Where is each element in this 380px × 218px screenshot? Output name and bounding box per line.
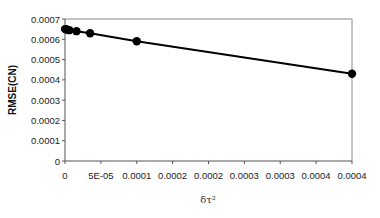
data-series <box>61 25 356 78</box>
series-line <box>65 29 352 74</box>
x-axis: 05E-050.00010.00020.00020.00030.00030.00… <box>62 161 366 181</box>
x-tick-label: 0.0002 <box>194 170 223 181</box>
y-axis-label: RMSE(CN) <box>7 65 18 115</box>
y-tick-label: 0.0004 <box>31 74 60 85</box>
y-tick-label: 0.0002 <box>31 115 60 126</box>
x-tick-label: 0.0003 <box>230 170 259 181</box>
x-tick-label: 0.0001 <box>122 170 151 181</box>
y-axis: 00.00010.00020.00030.00040.00050.00060.0… <box>31 14 65 167</box>
x-tick-label: 0.0004 <box>337 170 366 181</box>
y-tick-label: 0 <box>55 156 60 167</box>
data-point-marker <box>86 29 94 37</box>
y-tick-label: 0.0006 <box>31 34 60 45</box>
x-tick-label: 0.0002 <box>158 170 187 181</box>
data-point-marker <box>72 27 80 35</box>
y-tick-label: 0.0007 <box>31 14 60 25</box>
plot-area <box>65 19 352 161</box>
y-tick-label: 0.0005 <box>31 54 60 65</box>
data-point-marker <box>348 70 356 78</box>
x-tick-label: 0.0004 <box>302 170 331 181</box>
x-tick-label: 5E-05 <box>88 170 113 181</box>
data-point-marker <box>133 37 141 45</box>
y-tick-label: 0.0001 <box>31 135 60 146</box>
data-point-marker <box>65 26 73 34</box>
x-tick-label: 0.0003 <box>266 170 295 181</box>
x-tick-label: 0 <box>62 170 67 181</box>
y-tick-label: 0.0003 <box>31 95 60 106</box>
chart: 00.00010.00020.00030.00040.00050.00060.0… <box>0 0 380 218</box>
x-axis-label: δτ² <box>200 194 216 205</box>
